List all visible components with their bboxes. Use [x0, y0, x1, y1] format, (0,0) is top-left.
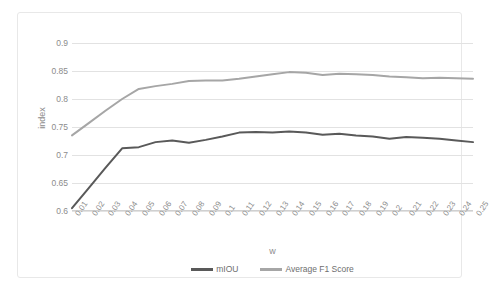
x-axis-title: w — [72, 246, 473, 256]
y-axis-tick-label: 0.7 — [26, 151, 68, 160]
legend-label: Average F1 Score — [285, 265, 353, 274]
x-axis-tick-labels: 0.010.020.030.040.050.060.070.080.090.10… — [72, 213, 473, 247]
y-axis-tick-label: 0.9 — [26, 39, 68, 48]
legend-color-swatch — [191, 268, 213, 271]
y-axis-tick-label: 0.65 — [26, 179, 68, 188]
x-axis-tick-label: 0.25 — [475, 200, 490, 217]
legend-color-swatch — [260, 268, 282, 271]
plot-svg — [72, 43, 473, 211]
y-axis-tick-label: 0.8 — [26, 95, 68, 104]
y-axis-tick-labels: 0.60.650.70.750.80.850.9 — [24, 43, 68, 211]
y-axis-tick-label: 0.6 — [26, 207, 68, 216]
plot-area — [72, 43, 473, 211]
legend-label: mIOU — [216, 265, 238, 274]
y-axis-tick-label: 0.85 — [26, 67, 68, 76]
chart-container: index 0.60.650.70.750.80.850.9 0.010.020… — [17, 12, 462, 278]
series-line — [72, 131, 473, 208]
y-axis-tick-label: 0.75 — [26, 123, 68, 132]
legend-item[interactable]: Average F1 Score — [260, 265, 353, 274]
legend-item[interactable]: mIOU — [191, 265, 238, 274]
series-line — [72, 72, 473, 135]
chart-legend: mIOUAverage F1 Score — [72, 265, 473, 274]
